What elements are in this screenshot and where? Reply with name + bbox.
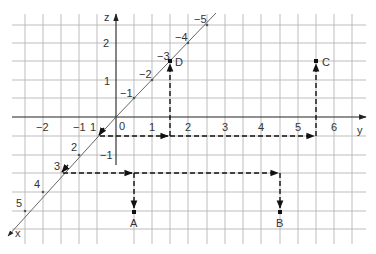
point-D-label: D [175, 56, 183, 68]
z-axis-label: z [104, 11, 110, 23]
x-tick-5: 5 [16, 197, 22, 209]
z-tick--1: −1 [100, 149, 113, 161]
x-tick--4: −4 [175, 31, 188, 43]
y-tick-4: 4 [258, 121, 264, 133]
y-tick--2: −2 [36, 121, 49, 133]
x-tick-4: 4 [34, 178, 40, 190]
origin-label: 0 [119, 120, 125, 132]
y-tick-5: 5 [295, 121, 301, 133]
y-tick--1: −1 [73, 121, 86, 133]
x-axis-negative [116, 13, 216, 117]
x-tick--1: −1 [120, 87, 133, 99]
x-tick-3: 3 [54, 160, 60, 172]
point-A: A [130, 210, 138, 229]
x-tick--2: −2 [139, 68, 152, 80]
y-tick-6: 6 [331, 121, 337, 133]
coordinate-diagram: z y x 0 −2 −1 1 2 3 4 5 6 2 1 −1 1 2 3 4… [0, 0, 376, 254]
x-tick-2: 2 [71, 141, 77, 153]
y-tick-3: 3 [222, 121, 228, 133]
point-B-label: B [276, 217, 283, 229]
z-tick-2: 2 [103, 37, 109, 49]
z-tick-1: 1 [104, 75, 110, 87]
x-tick--3: −3 [157, 50, 170, 62]
point-A-label: A [130, 217, 138, 229]
point-B: B [276, 210, 283, 229]
point-C-label: C [322, 56, 330, 68]
x-tick-1: 1 [90, 121, 96, 133]
x-tick--5: −5 [194, 13, 207, 25]
y-tick-2: 2 [185, 121, 191, 133]
y-tick-1: 1 [149, 121, 155, 133]
y-axis-label: y [357, 124, 363, 136]
x-axis-label: x [15, 227, 21, 239]
